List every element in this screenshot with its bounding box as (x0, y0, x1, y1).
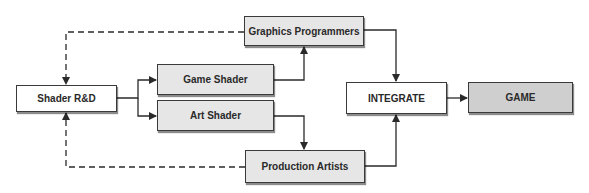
node-label: Shader R&D (37, 93, 95, 104)
edge-production-artists-to-integrate (365, 115, 396, 166)
node-art-shader: Art Shader (157, 100, 274, 131)
node-label: Art Shader (190, 110, 241, 121)
edge-graphics-programmers-to-integrate (364, 30, 396, 81)
node-label: GAME (506, 92, 536, 103)
node-integrate: INTEGRATE (346, 82, 447, 114)
node-game: GAME (468, 82, 573, 113)
node-graphics-programmers: Graphics Programmers (244, 16, 364, 46)
edge-art-shader-to-production-artists (274, 116, 304, 149)
node-label: Game Shader (183, 74, 247, 85)
edge-shader-rd-to-art-shader (138, 98, 156, 116)
node-label: INTEGRATE (368, 93, 425, 104)
node-label: Graphics Programmers (248, 26, 359, 37)
node-game-shader: Game Shader (157, 64, 274, 95)
node-shader-rd: Shader R&D (16, 85, 117, 112)
edge-shader-rd-to-game-shader (117, 80, 156, 98)
node-label: Production Artists (262, 161, 349, 172)
edge-game-shader-to-graphics-programmers (274, 47, 304, 80)
node-production-artists: Production Artists (245, 150, 365, 183)
